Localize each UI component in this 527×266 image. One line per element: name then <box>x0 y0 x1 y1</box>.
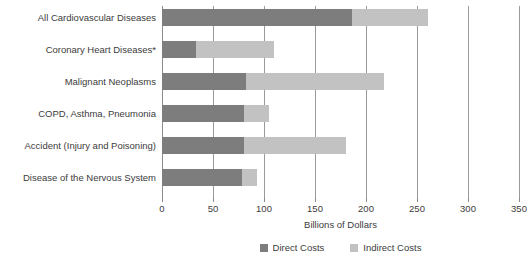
bar-row <box>162 105 269 122</box>
x-tick <box>162 198 163 202</box>
x-tick <box>366 198 367 202</box>
x-tick <box>213 198 214 202</box>
category-label: Disease of the Nervous System <box>0 169 156 186</box>
category-label: COPD, Asthma, Pneumonia <box>0 105 156 122</box>
category-label: Accident (Injury and Poisoning) <box>0 137 156 154</box>
legend-swatch-icon <box>350 244 358 252</box>
legend: Direct CostsIndirect Costs <box>162 242 519 253</box>
bar-segment <box>162 9 352 26</box>
bar-segment <box>162 169 242 186</box>
bar-segment <box>162 41 196 58</box>
x-tick <box>417 198 418 202</box>
x-tick-label: 200 <box>358 203 374 214</box>
bar-row <box>162 169 257 186</box>
category-label: Coronary Heart Diseases* <box>0 41 156 58</box>
x-tick <box>264 198 265 202</box>
x-tick <box>315 198 316 202</box>
bar-segment <box>162 137 244 154</box>
x-tick-label: 150 <box>307 203 323 214</box>
x-tick-label: 50 <box>208 203 219 214</box>
bar-row <box>162 73 384 90</box>
x-tick-label: 100 <box>256 203 272 214</box>
x-axis: 050100150200250300350 <box>162 198 519 218</box>
category-label: Malignant Neoplasms <box>0 73 156 90</box>
legend-item: Indirect Costs <box>350 242 421 253</box>
x-tick-label: 300 <box>460 203 476 214</box>
legend-item: Direct Costs <box>260 242 325 253</box>
bar-segment <box>246 73 385 90</box>
bar-segment <box>162 105 244 122</box>
x-tick <box>519 198 520 202</box>
bar-row <box>162 9 428 26</box>
legend-label: Indirect Costs <box>363 242 421 253</box>
x-tick-label: 250 <box>409 203 425 214</box>
bar-row <box>162 41 274 58</box>
legend-swatch-icon <box>260 244 268 252</box>
x-tick-label: 0 <box>159 203 164 214</box>
gridline <box>519 6 520 198</box>
x-tick-label: 350 <box>511 203 527 214</box>
bar-segment <box>244 137 346 154</box>
bar-segment <box>242 169 257 186</box>
legend-label: Direct Costs <box>273 242 325 253</box>
category-label: All Cardiovascular Diseases <box>0 9 156 26</box>
plot-area <box>162 6 519 198</box>
x-axis-title: Billions of Dollars <box>162 219 519 230</box>
category-axis: All Cardiovascular Diseases Coronary Hea… <box>0 6 156 198</box>
bar-row <box>162 137 346 154</box>
bar-segment <box>352 9 429 26</box>
bar-rows <box>162 6 519 198</box>
x-tick <box>468 198 469 202</box>
bar-segment <box>162 73 246 90</box>
bar-segment <box>244 105 270 122</box>
bar-segment <box>196 41 275 58</box>
